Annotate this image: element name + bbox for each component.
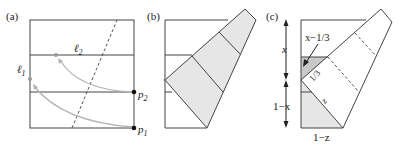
folding-figure: (a) ℓ2 ℓ1 p2 p1 (b) (c) bbox=[0, 0, 407, 146]
panel-a: (a) ℓ2 ℓ1 p2 p1 bbox=[6, 10, 148, 138]
panel-b-label: (b) bbox=[147, 10, 160, 23]
label-1-minus-z: 1−z bbox=[313, 131, 330, 143]
point-p1 bbox=[132, 126, 137, 131]
panel-b: (b) bbox=[147, 9, 256, 128]
label-p2: p2 bbox=[137, 88, 148, 103]
point-p2 bbox=[132, 90, 137, 95]
panel-c-label: (c) bbox=[266, 10, 279, 23]
arrowhead-x-bottom bbox=[284, 73, 289, 80]
arrowhead-1mx-bottom bbox=[284, 121, 289, 128]
dashed-crease-1-c bbox=[355, 33, 376, 56]
label-1-minus-x: 1−x bbox=[273, 100, 291, 112]
image-point-l2 bbox=[54, 53, 58, 57]
label-x-minus-third: x−1/3 bbox=[305, 32, 330, 43]
panel-a-label: (a) bbox=[6, 10, 19, 23]
dashed-crease-2-c bbox=[328, 57, 358, 91]
arrowhead-1mx-top bbox=[284, 80, 289, 87]
image-point-l1 bbox=[28, 77, 32, 81]
label-p1: p1 bbox=[137, 123, 148, 138]
fold-line-dashed-a bbox=[72, 20, 117, 128]
vertex-b bbox=[164, 79, 167, 82]
label-x: x bbox=[281, 43, 287, 55]
panel-c: (c) x 1−x x−1/3 1/3 z 1−z bbox=[266, 9, 392, 143]
folded-flap-b bbox=[165, 9, 256, 128]
arc-p2-to-l2 bbox=[60, 60, 133, 92]
label-l1: ℓ1 bbox=[17, 63, 26, 78]
arrowhead-x-top bbox=[284, 19, 289, 26]
square-a bbox=[30, 20, 134, 128]
